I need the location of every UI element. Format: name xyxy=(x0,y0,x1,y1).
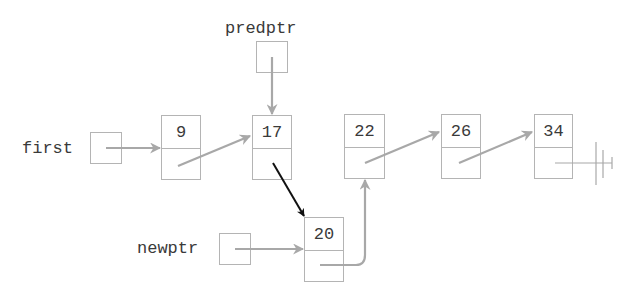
arrow-17-to-20 xyxy=(273,163,304,216)
arrow-26-to-34 xyxy=(459,132,532,163)
null-terminator-icon xyxy=(555,142,612,185)
arrow-9-to-17 xyxy=(178,136,250,166)
arrows-layer xyxy=(0,0,628,298)
arrow-22-to-26 xyxy=(365,132,439,163)
arrow-20-to-22 xyxy=(320,180,365,265)
